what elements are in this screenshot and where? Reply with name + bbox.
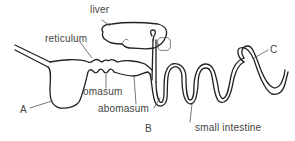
label-reticulum: reticulum [45,33,87,44]
gallbladder [151,30,156,40]
label-abomasum: abomasum [98,103,149,114]
label-A: A [20,104,27,115]
label-liver: liver [90,4,109,15]
leader-reticulum [80,42,92,58]
large-intestine [238,48,288,95]
liver-lobe-line [122,39,128,44]
label-C: C [270,44,277,55]
small-intestine-inner [156,58,244,102]
ruminant-digestive-diagram: liver reticulum omasum abomasum small in… [0,0,295,141]
abomasum-outline [114,72,150,76]
rumen-outline [50,59,152,70]
leader-C [254,50,268,58]
leader-small-intestine [190,104,192,122]
label-small-intestine: small intestine [195,122,261,133]
bile-duct [152,40,156,82]
label-B: B [145,123,152,134]
digestive-tract-drawing [0,0,295,141]
liver-outline [102,23,167,49]
leader-abomasum [134,76,136,104]
label-omasum: omasum [83,86,123,97]
leader-A [30,101,52,108]
